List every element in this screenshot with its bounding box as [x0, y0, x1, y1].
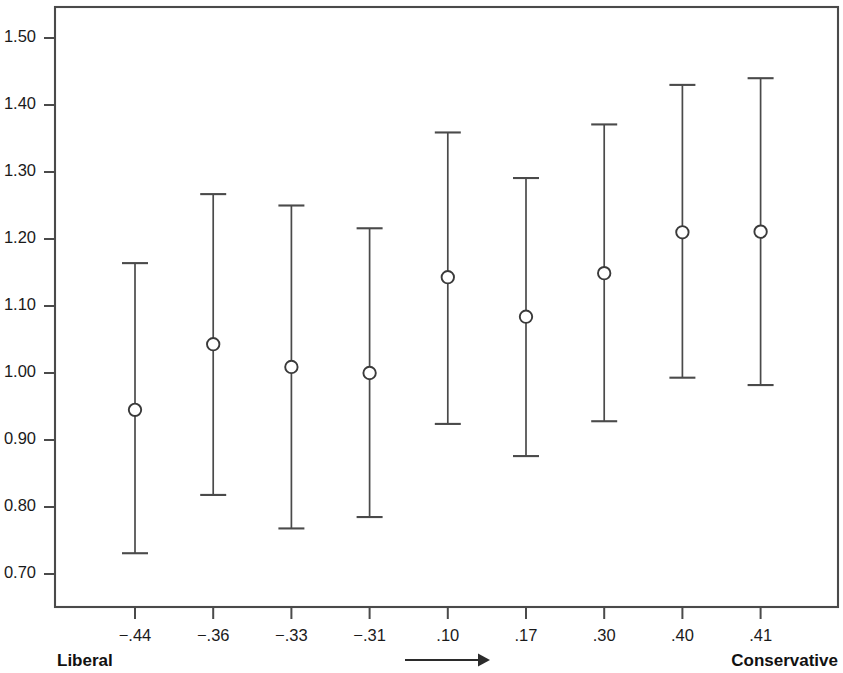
x-axis-tick-label: −.44 — [119, 626, 152, 644]
y-axis-tick-label: 0.70 — [4, 563, 36, 581]
y-axis-tick-labels: 1.501.401.301.201.101.000.900.800.70 — [4, 27, 36, 581]
right-endpoint-label: Conservative — [731, 651, 838, 670]
chart-figure: 1.501.401.301.201.101.000.900.800.70 −.4… — [0, 0, 843, 673]
x-axis-tick-label: −.36 — [197, 626, 230, 644]
x-axis-tick-label: .17 — [515, 626, 538, 644]
y-axis-tick-label: 1.40 — [4, 94, 36, 112]
x-axis-tick-label: −.31 — [353, 626, 386, 644]
x-axis-tick-labels: −.44−.36−.33−.31.10.17.30.40.41 — [119, 626, 772, 644]
x-axis-tick-label: −.33 — [275, 626, 308, 644]
x-axis-tick-label: .41 — [749, 626, 772, 644]
x-axis-tick-label: .40 — [671, 626, 694, 644]
y-axis-tick-label: 1.20 — [4, 228, 36, 246]
y-axis-tick-label: 1.30 — [4, 161, 36, 179]
x-axis-tick-label: .30 — [593, 626, 616, 644]
y-axis-tick-label: 1.00 — [4, 362, 36, 380]
error-bar-chart: 1.501.401.301.201.101.000.900.800.70 −.4… — [0, 0, 843, 673]
y-axis-tick-label: 1.50 — [4, 27, 36, 45]
y-axis-tick-label: 0.90 — [4, 429, 36, 447]
y-axis-tick-label: 0.80 — [4, 496, 36, 514]
left-endpoint-label: Liberal — [57, 651, 113, 670]
chart-background — [0, 0, 843, 673]
y-axis-tick-label: 1.10 — [4, 295, 36, 313]
x-axis-tick-label: .10 — [436, 626, 459, 644]
